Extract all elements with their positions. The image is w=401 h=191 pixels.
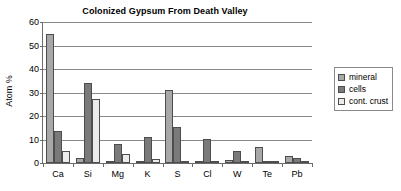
bar-group: K [133,22,163,163]
legend-item[interactable]: mineral [338,71,388,83]
x-axis-tick-mark [103,163,104,167]
bar[interactable] [114,144,122,163]
x-axis-tick-label: Pb [292,169,303,179]
bar[interactable] [195,161,203,163]
bar[interactable] [181,161,189,163]
x-axis-tick-label: Te [262,169,272,179]
y-axis-tick-label: 20 [5,111,39,121]
bar-group-bars [192,22,222,163]
bar-group-bars [133,22,163,163]
bar[interactable] [301,161,309,163]
bar[interactable] [144,137,152,163]
bar[interactable] [241,161,249,163]
legend-swatch-icon [338,98,345,105]
bar[interactable] [84,83,92,163]
y-axis-tick-label: 50 [5,41,39,51]
y-axis-tick-label: 60 [5,17,39,27]
x-axis-tick-mark [222,163,223,167]
legend-item-label: cont. crust [349,96,388,106]
bar-group: Mg [103,22,133,163]
bar[interactable] [285,156,293,163]
y-axis-tick-label: 10 [5,135,39,145]
x-axis-tick-mark [43,163,44,167]
x-axis-tick-label: S [174,169,180,179]
bar[interactable] [62,151,70,163]
y-axis-tick-label: 30 [5,88,39,98]
x-axis-tick-mark [73,163,74,167]
x-axis-tick-mark [192,163,193,167]
bar[interactable] [271,161,279,163]
x-axis-tick-mark [163,163,164,167]
bar-group: Te [252,22,282,163]
legend-item[interactable]: cont. crust [338,95,388,107]
x-axis-tick-label: Mg [111,169,124,179]
bar-group-bars [103,22,133,163]
legend-item-label: cells [349,84,366,94]
chart-legend: mineralcellscont. crust [334,67,393,111]
bar-chart: Colonized Gypsum From Death Valley Atom … [0,0,401,191]
bar-group-bars [163,22,193,163]
bar-group: W [222,22,252,163]
legend-item[interactable]: cells [338,83,388,95]
bar-group: Si [73,22,103,163]
bar[interactable] [152,159,160,163]
bar[interactable] [46,34,54,163]
bar[interactable] [76,158,84,163]
x-axis-tick-mark [252,163,253,167]
bar-group-bars [222,22,252,163]
bar[interactable] [92,99,100,163]
x-axis-tick-label: Ca [52,169,64,179]
bar-group: Ca [43,22,73,163]
bar-group-bars [252,22,282,163]
bar[interactable] [165,90,173,163]
x-axis-tick-label: Si [84,169,92,179]
bar[interactable] [136,161,144,163]
legend-swatch-icon [338,74,345,81]
bar-group-bars [73,22,103,163]
plot-area: 0102030405060 CaSiMgKSClWTePb [42,22,312,164]
bar[interactable] [293,158,301,163]
legend-item-label: mineral [349,72,377,82]
y-axis-tick-label: 40 [5,64,39,74]
bar[interactable] [106,161,114,163]
bar[interactable] [54,131,62,163]
bar[interactable] [263,161,271,163]
bar-group-bars [282,22,312,163]
bar[interactable] [225,160,233,163]
y-axis-tick-label: 0 [5,158,39,168]
bar-group: Cl [192,22,222,163]
bar-group: Pb [282,22,312,163]
bar[interactable] [233,151,241,163]
x-axis-tick-label: Cl [203,169,212,179]
bar-group-bars [43,22,73,163]
x-axis-tick-label: W [233,169,242,179]
bar[interactable] [255,147,263,163]
legend-swatch-icon [338,86,345,93]
bar[interactable] [203,139,211,163]
bar[interactable] [122,154,130,163]
x-axis-tick-mark [133,163,134,167]
bar[interactable] [211,161,219,163]
bar[interactable] [173,127,181,163]
x-axis-tick-label: K [145,169,151,179]
chart-title: Colonized Gypsum From Death Valley [0,6,330,16]
x-axis-tick-mark [312,163,313,167]
bar-group: S [163,22,193,163]
x-axis-tick-mark [282,163,283,167]
